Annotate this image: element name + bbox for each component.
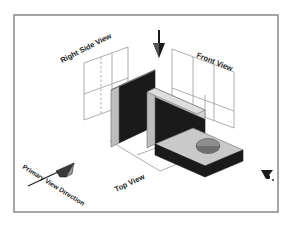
projection-diagram: Right Side View Front View Top View Prim…: [0, 0, 294, 230]
figure-container: Right Side View Front View Top View Prim…: [0, 0, 294, 230]
